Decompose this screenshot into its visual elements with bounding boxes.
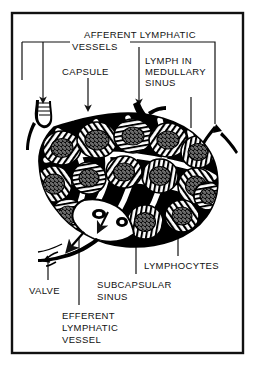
label-capsule: CAPSULE: [62, 66, 109, 77]
label-afferent-lymphatic-vessels-line1: AFFERENT LYMPHATIC: [84, 29, 196, 40]
label-lymphocytes: LYMPHOCYTES: [144, 260, 219, 271]
label-valve: VALVE: [29, 285, 60, 296]
label-efferent-lymphatic-vessel-line1: EFFERENT: [62, 310, 115, 321]
diagram-canvas: [0, 0, 259, 368]
lymph-node-body: [36, 114, 222, 247]
label-subcapsular-sinus-line1: SUBCAPSULAR: [97, 279, 172, 290]
label-efferent-lymphatic-vessel-line2: LYMPHATIC: [62, 322, 118, 333]
label-efferent-lymphatic-vessel-line3: VESSEL: [62, 334, 101, 345]
label-lymph-in-medullary-sinus-line1: LYMPH IN: [145, 55, 192, 66]
label-lymph-in-medullary-sinus-line3: SINUS: [145, 77, 176, 88]
label-subcapsular-sinus-line2: SINUS: [97, 291, 128, 302]
label-afferent-lymphatic-vessels-line2: VESSELS: [72, 41, 118, 52]
label-lymph-in-medullary-sinus-line2: MEDULLARY: [145, 66, 206, 77]
lymph-node-figure: AFFERENT LYMPHATIC VESSELS CAPSULE LYMPH…: [0, 0, 259, 368]
